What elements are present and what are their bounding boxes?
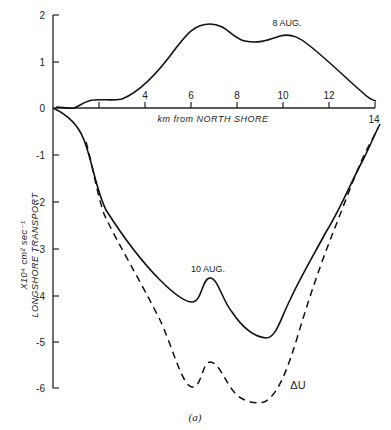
y-axis-label-line2: X10⁴ cm² sec⁻¹ (19, 221, 29, 291)
y-axis-label-line1: LONGSHORE TRANSPORT (30, 192, 40, 318)
y-tick-label: 1 (39, 57, 45, 68)
y-tick-label: -1 (36, 150, 45, 161)
x-axis-label: km from NORTH SHORE (158, 114, 269, 124)
y-tick-label: 0 (39, 103, 45, 114)
x-tick-label: 12 (323, 90, 335, 101)
annotation-delta-u: ΔU (290, 379, 305, 391)
x-tick-label: 8 (234, 90, 240, 101)
x-ticks (99, 102, 375, 108)
series-10-aug (53, 108, 378, 338)
y-axis-label: LONGSHORE TRANSPORT X10⁴ cm² sec⁻¹ (19, 192, 40, 318)
figure-caption: (a) (189, 411, 202, 424)
y-ticks (53, 15, 59, 388)
x-tick-label: 6 (188, 90, 194, 101)
y-tick-label: -5 (36, 337, 45, 348)
chart: 2 1 0 -1 -2 -3 -4 -5 -6 4 6 8 10 12 14 k… (0, 0, 391, 430)
annotation-10-aug: 10 AUG. (191, 264, 225, 274)
y-tick-label: -6 (36, 383, 45, 394)
series-delta-u (86, 124, 380, 403)
x-tick-label: 14 (368, 114, 380, 125)
x-tick-label: 4 (142, 90, 148, 101)
x-tick-label: 10 (277, 90, 289, 101)
annotation-8-aug: 8 AUG. (272, 18, 301, 28)
y-tick-label: 2 (39, 10, 45, 21)
